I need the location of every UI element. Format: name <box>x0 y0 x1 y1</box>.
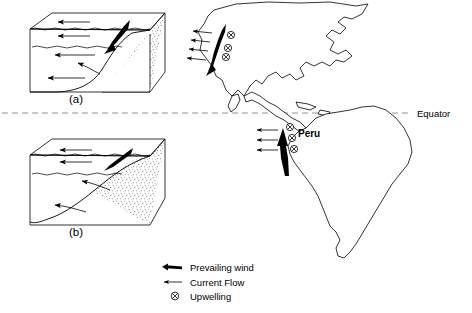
prevailing-wind-arrow-peru <box>280 146 289 176</box>
block-top-face-b <box>30 139 165 156</box>
block-diagram-a: (a) <box>30 13 165 105</box>
legend-label-upwelling: Upwelling <box>190 291 231 302</box>
upwelling-icon <box>171 292 179 300</box>
legend-item-prevailing-wind: Prevailing wind <box>162 262 254 273</box>
legend-item-upwelling: Upwelling <box>171 291 231 302</box>
panel-label-a: (a) <box>69 93 83 105</box>
figure-root: Equator <box>0 0 472 313</box>
upwelling-symbol-peru-2 <box>288 134 295 141</box>
legend: Prevailing wind Current Flow Upwelling <box>162 262 254 302</box>
upwelling-symbol-california-1 <box>227 31 234 38</box>
caribbean-island-cuba <box>296 102 316 110</box>
thick-arrow-icon <box>166 265 182 269</box>
upwelling-symbol-peru-3 <box>290 145 297 152</box>
upwelling-figure: Equator <box>0 0 472 313</box>
central-america-landmass <box>244 92 306 132</box>
panel-label-b: (b) <box>69 226 83 238</box>
block-top-face-a <box>30 13 165 30</box>
legend-label-prevailing-wind: Prevailing wind <box>190 262 254 273</box>
block-diagram-b: (b) <box>30 139 165 238</box>
upwelling-symbol-california-2 <box>224 44 231 51</box>
current-arrow-california-4 <box>187 58 206 60</box>
legend-item-current-flow: Current Flow <box>164 277 245 288</box>
upwelling-symbol-peru-1 <box>286 123 293 130</box>
legend-label-current-flow: Current Flow <box>190 277 245 288</box>
upwelling-symbol-california-3 <box>222 53 229 60</box>
place-label-peru: Peru <box>298 128 320 139</box>
prevailing-wind-arrowhead-peru <box>277 128 288 146</box>
thick-arrow-head-icon <box>162 264 168 271</box>
equator-label: Equator <box>417 108 450 119</box>
north-america-landmass <box>198 2 368 96</box>
baja-peninsula <box>228 94 240 112</box>
